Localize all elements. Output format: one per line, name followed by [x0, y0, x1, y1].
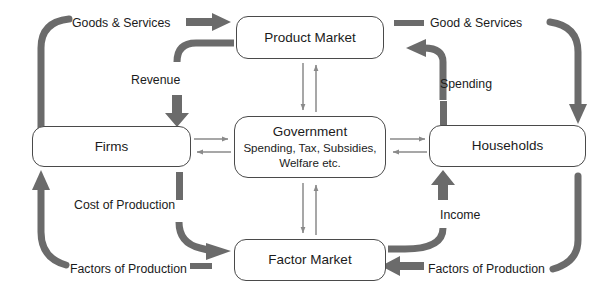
flow-households-to-factors-of-production [553, 176, 578, 269]
flow-revenue-to-firms [165, 95, 189, 127]
flow-goods-services-to-product-market [186, 13, 231, 31]
node-households[interactable]: Households [429, 125, 586, 167]
label-factors-of-production-right: Factors of Production [428, 262, 545, 276]
node-factor-market[interactable]: Factor Market [234, 239, 386, 281]
flow-factors-left-dash [190, 263, 212, 269]
flow-spending-to-product-market [406, 39, 443, 100]
circular-flow-diagram: Product Market Firms Government Spending… [0, 0, 614, 297]
flow-households-to-spending [440, 101, 447, 125]
flow-government-product-market-exchange [303, 63, 316, 112]
node-government-label: Government [273, 124, 347, 140]
label-income: Income [440, 208, 480, 222]
flow-factors-of-production-to-factor-market [381, 256, 424, 276]
node-government[interactable]: Government Spending, Tax, Subsidies, Wel… [234, 116, 386, 178]
node-firms[interactable]: Firms [32, 126, 191, 167]
node-product-market[interactable]: Product Market [236, 16, 384, 59]
label-factors-of-production-left: Factors of Production [70, 262, 187, 276]
flow-product-market-to-revenue [177, 43, 234, 62]
node-government-line3: Welfare etc. [279, 156, 341, 170]
flow-firms-to-cost-of-production [176, 172, 183, 200]
flow-cost-of-production-to-factor-market [179, 222, 231, 260]
label-goods-services-right: Good & Services [430, 16, 522, 30]
label-goods-services-left: Goods & Services [72, 16, 170, 30]
flow-government-households-exchange [390, 139, 427, 152]
flow-households-to-goods-services [550, 22, 587, 124]
flow-goods-services-right-dash [394, 20, 424, 26]
label-cost-of-production: Cost of Production [74, 198, 175, 212]
label-spending: Spending [440, 77, 492, 91]
flow-government-firms-exchange [194, 139, 231, 152]
node-government-line2: Spending, Tax, Subsidies, [243, 141, 376, 155]
flow-firms-to-goods-services [41, 19, 69, 133]
node-households-label: Households [472, 138, 543, 154]
label-revenue: Revenue [131, 73, 180, 87]
flow-government-factor-market-exchange [303, 183, 316, 235]
flow-factors-of-production-to-firms [32, 170, 66, 265]
node-factor-market-label: Factor Market [268, 252, 351, 268]
flow-factor-market-to-income [388, 228, 443, 249]
flow-income-to-households [431, 170, 455, 200]
node-firms-label: Firms [95, 139, 129, 155]
node-product-market-label: Product Market [264, 30, 356, 46]
